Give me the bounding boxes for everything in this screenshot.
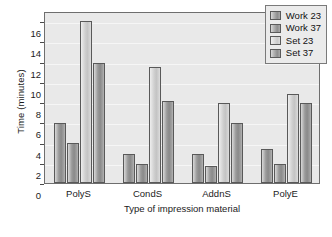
y-axis-tickmark: [40, 184, 44, 185]
legend-item-label: Set 23: [286, 36, 313, 46]
bar: [136, 164, 148, 183]
chart-legend: Work 23Work 37Set 23Set 37: [265, 5, 327, 64]
y-axis-tick-label: 14: [16, 50, 41, 60]
bar: [231, 123, 243, 183]
bar-chart: Time (minutes) 0246810121416 PolySCondSA…: [0, 0, 332, 237]
legend-item: Set 37: [270, 47, 321, 59]
x-axis-tick-label: CondS: [133, 188, 162, 199]
legend-item-label: Set 37: [286, 48, 313, 58]
y-axis-tick-label: 0: [16, 191, 41, 201]
legend-swatch-icon: [270, 24, 281, 33]
bar: [67, 143, 79, 183]
legend-item-label: Work 23: [286, 11, 321, 21]
y-axis-tickmark: [40, 144, 44, 145]
y-axis-tick-label: 12: [16, 70, 41, 80]
legend-item: Work 37: [270, 22, 321, 34]
legend-swatch-icon: [270, 11, 281, 20]
x-axis-title: Type of impression material: [44, 203, 320, 214]
y-axis-tick-label: 2: [16, 171, 41, 181]
bar: [93, 63, 105, 183]
y-axis-tickmark: [40, 103, 44, 104]
bar: [80, 21, 92, 183]
bar: [300, 103, 312, 183]
bar: [261, 149, 273, 183]
bar: [149, 67, 161, 183]
y-axis-tickmark: [40, 42, 44, 43]
bar: [218, 103, 230, 183]
bar: [192, 154, 204, 183]
y-axis-tick-labels: 0246810121416: [16, 12, 41, 184]
legend-swatch-icon: [270, 49, 281, 58]
y-axis-tick-label: 8: [16, 110, 41, 120]
x-axis-tick-label: AddnS: [202, 188, 231, 199]
legend-swatch-icon: [270, 36, 281, 45]
y-axis-tick-label: 10: [16, 90, 41, 100]
x-axis-tick-label: PolyE: [273, 188, 298, 199]
legend-item: Work 23: [270, 10, 321, 22]
bar: [123, 154, 135, 183]
y-axis-tickmark: [40, 22, 44, 23]
bar: [54, 123, 66, 183]
bar: [287, 94, 299, 183]
y-axis-tick-label: 4: [16, 151, 41, 161]
bar: [274, 164, 286, 183]
legend-item-label: Work 37: [286, 23, 321, 33]
bar: [162, 101, 174, 183]
y-axis-tick-label: 6: [16, 131, 41, 141]
legend-item: Set 23: [270, 35, 321, 47]
y-axis-tickmark: [40, 164, 44, 165]
x-axis-tick-label: PolyS: [66, 188, 91, 199]
y-axis-tickmark: [40, 63, 44, 64]
x-axis-tick-labels: PolySCondSAddnSPolyE: [44, 188, 320, 202]
bar: [205, 166, 217, 183]
y-axis-tickmark: [40, 83, 44, 84]
y-axis-tick-label: 16: [16, 29, 41, 39]
y-axis-tickmark: [40, 123, 44, 124]
